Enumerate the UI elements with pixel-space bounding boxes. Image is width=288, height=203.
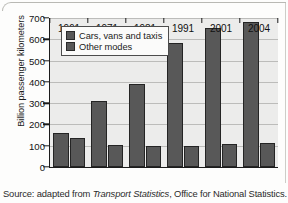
x-tick-mark [277,18,278,23]
bar-chart: Billion passenger kilometers 01002003004… [0,8,288,184]
legend-item: Other modes [66,41,162,52]
bar [243,22,259,167]
legend-swatch-icon [66,42,75,51]
bar [91,101,107,167]
bar [146,146,162,167]
y-tick-label: 400 [11,76,45,87]
y-tick-label: 200 [11,119,45,130]
source-prefix: Source: adapted from [3,188,93,199]
bar [129,84,145,167]
y-tick-label: 500 [11,55,45,66]
y-tick-label: 100 [11,140,45,151]
x-tick-label: 2004 [236,23,282,34]
legend-label: Other modes [79,42,132,52]
bar [260,143,276,167]
legend-label: Cars, vans and taxis [79,31,162,41]
legend-swatch-icon [66,31,75,40]
bar [167,43,183,167]
y-tick-label: 300 [11,98,45,109]
bar [108,145,124,167]
y-tick-label: 700 [11,13,45,24]
source-caption: Source: adapted from Transport Statistic… [3,188,287,199]
legend-item: Cars, vans and taxis [66,30,162,41]
y-tick-label: 600 [11,34,45,45]
source-suffix: , Office for National Statistics. [169,188,287,199]
bar [222,144,238,167]
bar [184,146,200,167]
chart-legend: Cars, vans and taxisOther modes [61,26,169,56]
figure-container: Billion passenger kilometers 01002003004… [0,0,288,203]
source-italic-title: Transport Statistics [93,188,170,199]
bar [53,133,69,167]
bar [70,138,86,167]
y-tick-label: 0 [11,162,45,173]
bar [205,28,221,167]
